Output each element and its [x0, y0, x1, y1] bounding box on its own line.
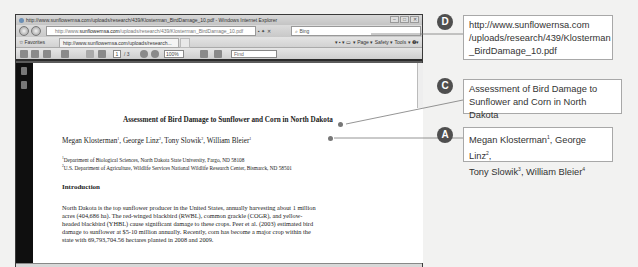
collaborate-icon[interactable]	[61, 50, 69, 58]
favorites-bar: ☆ Favorites http://www.sunflowernsa.com/…	[16, 37, 422, 48]
document-affiliations: 1Department of Biological Sciences, Nort…	[62, 155, 317, 172]
affiliation: 2U.S. Department of Agriculture, Wildlif…	[62, 163, 317, 171]
document-authors: Megan Klosterman1, George Linz2, Tony Sl…	[62, 136, 251, 145]
search-placeholder: Bing	[299, 28, 309, 34]
section-heading: Introduction	[62, 183, 100, 191]
pdf-toolbar: 1 / 3 100% Find	[16, 48, 422, 61]
find-input[interactable]: Find	[231, 50, 277, 58]
email-icon[interactable]	[43, 50, 51, 58]
close-button[interactable]: ✕	[410, 16, 419, 23]
author-sup: 2	[201, 136, 203, 141]
author-sup: 1	[249, 136, 251, 141]
callout-authors: Megan Klosterman1, George Linz2, Tony Sl…	[463, 127, 613, 162]
affiliation-text: Department of Biological Sciences, North…	[64, 157, 245, 163]
fit-width-icon[interactable]	[214, 50, 222, 58]
callout-badge-d: D	[437, 14, 453, 30]
callout-badge-a: A	[437, 127, 453, 143]
title-bar: http://www.sunflowernsa.com/uploads/rese…	[16, 15, 422, 25]
address-path: /uploads/research/439/Klosterman_BirdDam…	[120, 28, 243, 34]
callout-line: http://www.sunflowernsa.com	[469, 19, 607, 32]
affiliation-text: U.S. Department of Agriculture, Wildlife…	[64, 165, 292, 171]
window-controls: – □ ✕	[390, 16, 419, 23]
print-icon[interactable]	[20, 50, 28, 58]
author-name: Tony Slowik	[164, 137, 201, 145]
next-page-icon[interactable]	[98, 50, 106, 58]
minimize-button[interactable]: –	[390, 16, 399, 23]
fit-page-icon[interactable]	[200, 50, 208, 58]
figure-stage: http://www.sunflowernsa.com/uploads/rese…	[0, 0, 638, 267]
callout-line: Assessment of Bird Damage to	[469, 83, 616, 96]
callout-title: Assessment of Bird Damage to Sunflower a…	[463, 79, 622, 114]
window-bottom-edge	[16, 263, 422, 267]
command-bar[interactable]: ▾ ▪ ▾ ▭ ▾ Page ▾ Safety ▾ Tools ▾ ❷▾	[335, 38, 420, 47]
page-number-input[interactable]: 1	[113, 50, 121, 58]
callout-url: http://www.sunflowernsa.com /uploads/res…	[463, 15, 613, 60]
previous-page-icon[interactable]	[86, 50, 94, 58]
pdf-sidebar	[16, 63, 33, 263]
page-total: / 3	[124, 50, 130, 58]
callout-badge-c: C	[437, 78, 453, 94]
affiliation: 1Department of Biological Sciences, Nort…	[62, 155, 317, 163]
ie-logo-icon	[19, 18, 24, 23]
zoom-select[interactable]: 100%	[164, 50, 184, 58]
browser-window: http://www.sunflowernsa.com/uploads/rese…	[15, 14, 423, 267]
attachments-panel-icon[interactable]	[21, 81, 27, 89]
browser-tab[interactable]: http://www.sunflowernsa.com/uploads/rese…	[59, 38, 179, 48]
author-sup: 1	[117, 136, 119, 141]
body-paragraph: North Dakota is the top sunflower produc…	[62, 204, 317, 244]
zoom-out-icon[interactable]	[140, 50, 148, 58]
back-button[interactable]	[19, 26, 29, 36]
callout-sep: ,	[489, 151, 492, 161]
scrollbar[interactable]	[417, 63, 423, 108]
address-row: http://www.sunflowernsa.com/uploads/rese…	[16, 25, 422, 37]
pages-panel-icon[interactable]	[21, 67, 27, 75]
authors-marker-dot	[328, 136, 333, 141]
author-name: William Bleier	[207, 137, 250, 145]
address-tools[interactable]: ▪ ✦ ✕	[258, 26, 271, 36]
zoom-in-icon[interactable]	[151, 50, 159, 58]
author-sup: 2	[159, 136, 161, 141]
address-bar[interactable]: http://www.sunflowernsa.com/uploads/rese…	[46, 26, 256, 36]
callout-sup: 4	[582, 166, 585, 172]
maximize-button[interactable]: □	[400, 16, 409, 23]
save-icon[interactable]	[31, 50, 39, 58]
callout-line: Tony Slowik3, William Bleier4	[469, 163, 607, 179]
callout-line: Sunflower and Corn in North Dakota	[469, 96, 616, 122]
address-prefix: http://www.	[55, 28, 79, 34]
author-name: George Linz	[123, 137, 159, 145]
favorites-button[interactable]: ☆ Favorites	[19, 38, 45, 47]
callout-line: _BirdDamage_10.pdf	[469, 45, 607, 58]
forward-button[interactable]	[31, 26, 41, 36]
callout-author: , William Bleier	[521, 167, 582, 177]
callout-author: Megan Klosterman	[469, 135, 547, 145]
title-marker-dot	[338, 122, 343, 127]
search-input[interactable]: ⌕ Bing	[291, 26, 421, 36]
window-title: http://www.sunflowernsa.com/uploads/rese…	[26, 17, 277, 23]
address-domain: sunflowernsa.com	[79, 28, 119, 34]
author-name: Megan Klosterman	[62, 137, 117, 145]
new-tab-button[interactable]	[180, 38, 190, 48]
callout-line: /uploads/research/439/Klosterman	[469, 32, 607, 45]
document-title: Assessment of Bird Damage to Sunflower a…	[33, 116, 423, 124]
pdf-page: Assessment of Bird Damage to Sunflower a…	[33, 63, 423, 263]
callout-author: Tony Slowik	[469, 167, 518, 177]
callout-line: Megan Klosterman1, George Linz2,	[469, 131, 607, 163]
